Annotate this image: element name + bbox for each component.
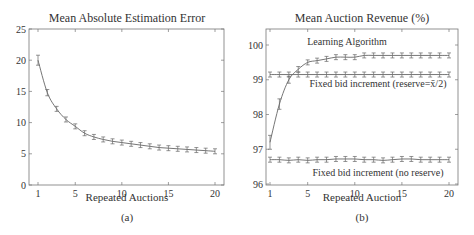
x-tick-label: 1 [268, 188, 273, 199]
y-tick-label: 98 [253, 109, 263, 120]
annotation-no-reserve: Fixed bid increment (no reserve) [312, 167, 443, 179]
caption-a: (a) [121, 211, 134, 224]
x-tick-label: 20 [210, 188, 220, 199]
annotation-learning-algorithm: Learning Algorithm [307, 36, 387, 47]
caption-b: (b) [356, 211, 369, 224]
series-line [270, 55, 449, 142]
y-tick-label: 10 [16, 117, 26, 128]
y-tick-label: 5 [21, 148, 26, 159]
y-tick-label: 25 [16, 24, 26, 35]
y-tick-label: 96 [253, 179, 263, 190]
x-tick-label: 5 [305, 188, 310, 199]
chart-title-b: Mean Auction Revenue (%) [295, 11, 429, 25]
x-axis-label-a: Repeated Auctions [86, 191, 169, 203]
x-tick-label: 20 [444, 188, 454, 199]
y-tick-label: 97 [253, 144, 263, 155]
plot-area-b [266, 29, 458, 185]
x-tick-label: 1 [36, 188, 41, 199]
y-tick-label: 0 [21, 180, 26, 191]
chart-title-a: Mean Absolute Estimation Error [49, 11, 205, 25]
y-tick-label: 99 [253, 74, 263, 85]
series-line [38, 60, 215, 151]
axes-a: 151015200510152025 [16, 24, 224, 200]
annotation-reserve: Fixed bid increment (reserve=x̄/2) [310, 78, 447, 90]
chart-panel-b: Mean Auction Revenue (%) 151015209697989… [248, 11, 458, 224]
x-tick-label: 5 [73, 188, 78, 199]
series-a [36, 55, 217, 154]
y-tick-label: 15 [16, 86, 26, 97]
y-tick-label: 20 [16, 55, 26, 66]
figure: Mean Absolute Estimation Error 151015200… [0, 0, 474, 235]
y-tick-label: 100 [248, 40, 263, 51]
x-axis-label-b: Repeated Auction [323, 191, 402, 203]
plot-area-a [29, 29, 224, 185]
chart-panel-a: Mean Absolute Estimation Error 151015200… [16, 11, 224, 224]
series-b [268, 53, 451, 163]
series-line [270, 159, 449, 160]
